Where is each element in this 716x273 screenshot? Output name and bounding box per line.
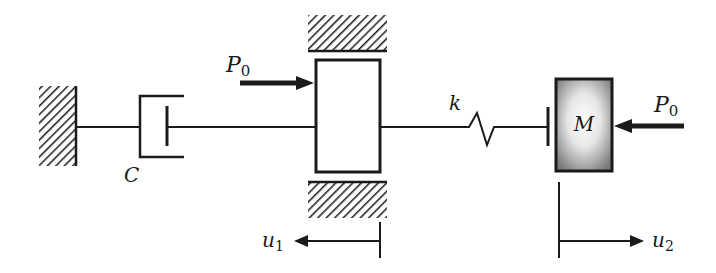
force-left-label: P0 — [225, 52, 250, 80]
mass: M — [556, 79, 612, 171]
force-right-label: P0 — [653, 92, 678, 120]
guide-top-hatch — [308, 15, 387, 51]
spring-label: k — [449, 91, 461, 115]
mechanical-system-diagram: C P0 k M P0 — [0, 0, 716, 273]
displacement-u1: u1 — [262, 222, 380, 258]
force-right-arrowhead — [614, 119, 632, 133]
mass-label: M — [573, 112, 595, 136]
force-on-mass: P0 — [614, 92, 684, 133]
guide-bottom — [308, 182, 387, 218]
fixed-wall — [39, 86, 76, 166]
block — [316, 60, 380, 172]
guide-top — [308, 15, 387, 51]
spring-zigzag — [380, 113, 548, 145]
u1-label: u1 — [262, 228, 284, 254]
u2-arrowhead — [630, 235, 644, 247]
damper-label: C — [124, 163, 139, 187]
damper: C — [124, 96, 316, 187]
force-left-arrowhead — [296, 76, 314, 90]
u2-label: u2 — [652, 228, 674, 254]
wall-hatch — [39, 86, 76, 166]
guide-bottom-hatch — [308, 182, 387, 218]
force-on-block: P0 — [225, 52, 314, 90]
displacement-u2: u2 — [559, 182, 674, 258]
spring: k — [380, 91, 548, 145]
u1-arrowhead — [294, 235, 308, 247]
